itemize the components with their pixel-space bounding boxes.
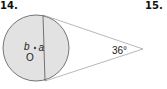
center-o-label: O bbox=[26, 52, 34, 63]
angle-a-label: a bbox=[39, 42, 45, 53]
angle-b-label: b bbox=[24, 41, 30, 52]
external-angle-label: 36° bbox=[112, 45, 127, 56]
center-point bbox=[34, 47, 36, 49]
geometry-diagram: b a O 36° bbox=[0, 0, 167, 89]
